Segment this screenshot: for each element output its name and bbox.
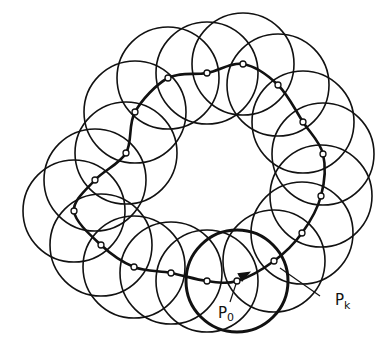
sample-point (123, 150, 129, 156)
sample-point (71, 208, 77, 214)
sample-point (240, 61, 246, 67)
sample-point (204, 70, 210, 76)
sample-point (275, 82, 281, 88)
sample-point (92, 177, 98, 183)
sample-point (204, 278, 210, 284)
covering-circles (23, 13, 374, 332)
label-p0: P0 (218, 304, 234, 324)
sample-point (132, 109, 138, 115)
sample-point (131, 264, 137, 270)
sample-point (165, 75, 171, 81)
circle-covering-diagram: P0 Pk (0, 0, 392, 354)
sample-point (98, 242, 104, 248)
sample-point (320, 151, 326, 157)
sample-point (300, 119, 306, 125)
closed-curve (74, 64, 325, 283)
label-pk: Pk (335, 291, 351, 312)
sample-point (299, 230, 305, 236)
sample-point (318, 193, 324, 199)
sample-point (168, 270, 174, 276)
sample-point (271, 258, 277, 264)
sample-point (234, 278, 240, 284)
